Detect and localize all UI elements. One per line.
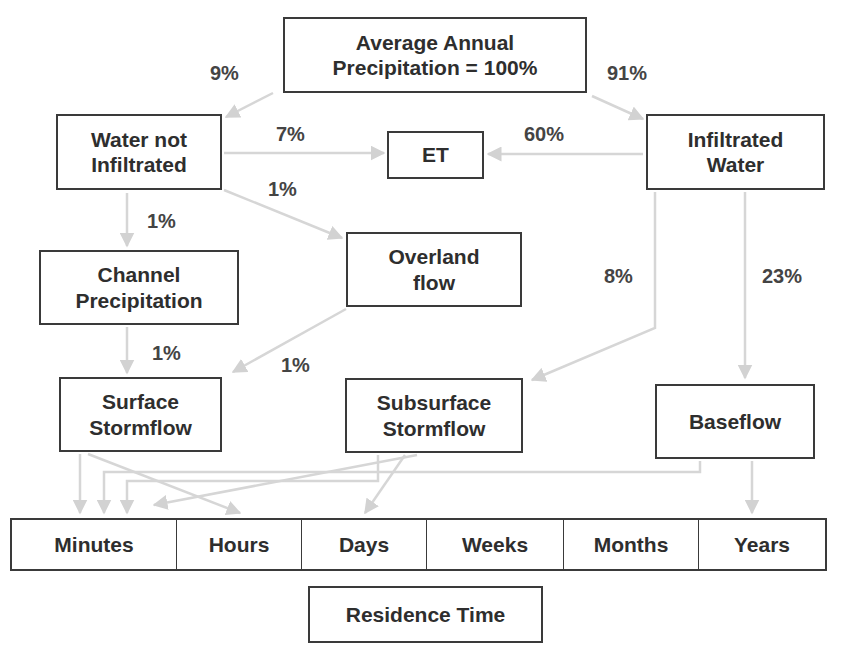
label-1pct-channel: 1% [147,210,176,233]
label-23pct: 23% [762,265,802,288]
node-infiltrated-water: Infiltrated Water [646,114,825,190]
label-91pct: 91% [607,62,647,85]
node-et: ET [387,131,484,179]
label-1pct-overland-surface: 1% [281,354,310,377]
node-subsurface-stormflow: Subsurface Stormflow [345,378,523,453]
time-cell-weeks: Weeks [427,520,564,569]
label-7pct: 7% [276,123,305,146]
label-1pct-channel-surface: 1% [152,342,181,365]
label-8pct: 8% [604,265,633,288]
node-precipitation: Average Annual Precipitation = 100% [283,17,587,93]
time-cell-hours: Hours [177,520,302,569]
node-baseflow: Baseflow [655,384,815,459]
residence-time-scale: Minutes Hours Days Weeks Months Years [10,518,827,571]
label-60pct: 60% [524,123,564,146]
node-surface-stormflow: Surface Stormflow [59,377,222,452]
node-channel-precipitation: Channel Precipitation [39,250,239,325]
node-water-not-infiltrated: Water not Infiltrated [56,114,222,190]
time-cell-days: Days [302,520,427,569]
residence-time-label: Residence Time [308,586,543,643]
time-cell-years: Years [699,520,825,569]
time-cell-minutes: Minutes [12,520,177,569]
node-overland-flow: Overland flow [346,232,522,307]
time-cell-months: Months [564,520,699,569]
label-9pct: 9% [210,62,239,85]
label-1pct-overland: 1% [268,178,297,201]
